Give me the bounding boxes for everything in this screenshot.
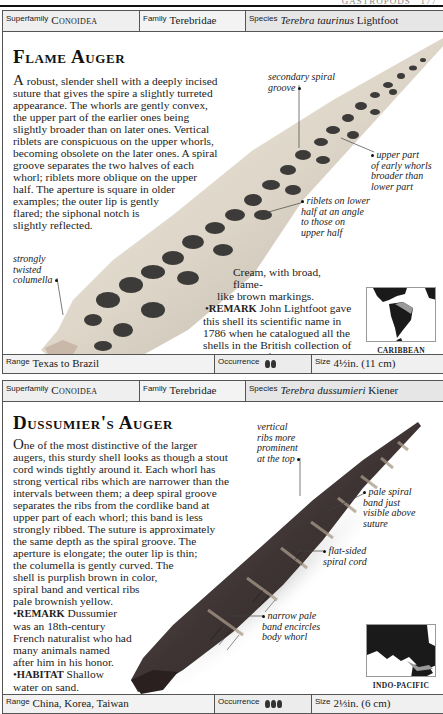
running-header: GASTROPODS 177	[0, 0, 443, 8]
callout-vertical-ribs-prominent: vertical ribs more prominent at the top	[257, 422, 300, 464]
size-value: 4½in. (11 cm)	[334, 357, 396, 369]
size-cell: Size4½in. (11 cm)	[312, 355, 443, 373]
footer-bar: RangeTexas to Brazil Occurrence Size4½in…	[3, 354, 443, 374]
range-map-caribbean	[366, 287, 436, 342]
entry-flame-auger: SuperfamilyConoidea FamilyTerebridae Spe…	[2, 10, 443, 374]
occurrence-shell-icon	[277, 700, 282, 708]
range-cell: RangeTexas to Brazil	[3, 355, 215, 373]
callout-strongly-twisted-columella: strongly twisted columella	[13, 254, 58, 286]
range-value: China, Korea, Taiwan	[33, 697, 129, 709]
occurrence-cell: Occurrence	[215, 695, 312, 713]
callout-pale-spiral-band: pale spiral band just visible above sutu…	[363, 487, 415, 529]
callout-dot	[371, 154, 374, 157]
callout-dot	[55, 279, 58, 282]
callout-flat-sided-spiral-cord: flat-sided spiral cord	[323, 546, 367, 567]
occurrence-shell-icon	[271, 360, 276, 368]
entry-dussumiers-auger: SuperfamilyConoidea FamilyTerebridae Spe…	[2, 380, 443, 714]
remark-label: Remark	[209, 303, 257, 314]
callout-dot	[363, 491, 366, 494]
callout-dot	[262, 615, 265, 618]
range-value: Texas to Brazil	[33, 357, 99, 369]
callout-narrow-pale-band: narrow pale band encircles body whorl	[262, 611, 320, 643]
callout-dot	[323, 550, 326, 553]
size-value: 2⅓in. (6 cm)	[334, 697, 391, 709]
callout-riblets-lower-half: riblets on lower half at an angle to tho…	[301, 196, 370, 238]
range-cell: RangeChina, Korea, Taiwan	[3, 695, 215, 713]
occurrence-shell-icon	[271, 700, 276, 708]
map-region-label: INDO-PACIFIC	[361, 681, 441, 690]
occurrence-cell: Occurrence	[215, 355, 312, 373]
header-rule	[0, 5, 443, 7]
range-map-indo-pacific	[366, 624, 436, 677]
callout-dot	[298, 87, 301, 90]
callout-upper-part-early-whorls: upper part of early whorls broader than …	[371, 150, 432, 192]
occurrence-shell-icon	[265, 700, 270, 708]
callout-secondary-spiral-groove: secondary spiral groove	[268, 72, 335, 93]
callout-dot	[301, 200, 304, 203]
occurrence-shell-icon	[265, 360, 270, 368]
footer-bar: RangeChina, Korea, Taiwan Occurrence Siz…	[3, 694, 443, 714]
size-cell: Size2⅓in. (6 cm)	[312, 695, 443, 713]
callout-dot	[297, 458, 300, 461]
